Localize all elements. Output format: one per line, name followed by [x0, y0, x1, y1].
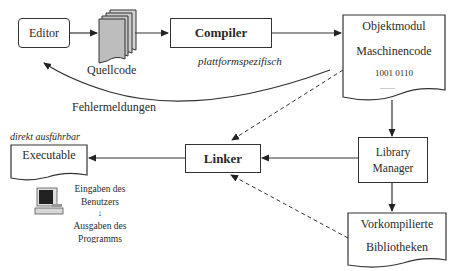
library-manager-line1: Library — [376, 144, 410, 160]
objektmodul-dots: .......... — [380, 84, 395, 90]
edge-vorkompilierte-linker-dashed — [231, 175, 348, 238]
objektmodul-title: Objektmodul — [343, 19, 445, 34]
io-line1: Eingaben des — [62, 184, 138, 194]
objektmodul-subtitle: Maschinencode — [343, 44, 445, 59]
quellcode-label: Quellcode — [87, 63, 136, 78]
objektmodul-bits: 1001 0110 — [343, 68, 445, 78]
library-manager-node: Library Manager — [358, 137, 428, 183]
linker-node: Linker — [185, 144, 261, 173]
compiler-label: Compiler — [195, 25, 248, 41]
io-arrow-icon: ↓ — [62, 208, 138, 218]
vorkompilierte-line1: Vorkompilierte — [348, 217, 446, 232]
editor-node: Editor — [18, 18, 70, 48]
compiler-node: Compiler — [170, 18, 272, 48]
library-manager-line2: Manager — [373, 160, 414, 176]
editor-label: Editor — [29, 26, 59, 41]
plattformspezifisch-annotation: plattformspezifisch — [198, 55, 282, 67]
executable-label: Executable — [11, 148, 87, 163]
vorkompilierte-line2: Bibliotheken — [348, 240, 446, 255]
quellcode-stack-icon — [99, 10, 136, 63]
linker-label: Linker — [204, 151, 242, 167]
fehlermeldungen-label: Fehlermeldungen — [72, 100, 156, 115]
io-line2: Benutzers — [62, 197, 138, 207]
io-line4: Programms — [62, 234, 138, 243]
computer-icon — [35, 188, 63, 214]
direkt-ausfuehrbar-annotation: direkt ausführbar — [10, 131, 80, 142]
io-line3: Ausgaben des — [62, 221, 138, 231]
edge-objektmodul-linker-dashed — [232, 70, 343, 140]
